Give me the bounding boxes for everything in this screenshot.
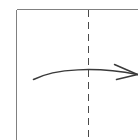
figure-root [0, 0, 138, 140]
diagram-canvas [0, 0, 138, 140]
